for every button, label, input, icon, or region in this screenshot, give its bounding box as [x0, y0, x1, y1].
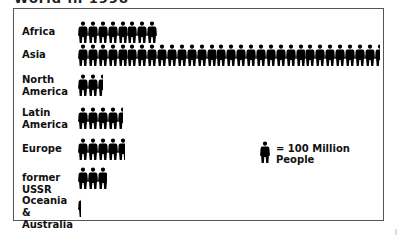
person-icon: [266, 44, 276, 66]
legend-text: = 100 Million People: [276, 143, 383, 165]
person-icon: [197, 44, 207, 66]
person-icon: [98, 21, 108, 43]
person-icon: [108, 107, 118, 129]
person-icon: [108, 44, 118, 66]
person-icon: [207, 44, 217, 66]
corner-mark: [395, 229, 397, 235]
person-icon: [236, 44, 246, 66]
row-label: former USSR: [22, 172, 60, 196]
person-icon: [246, 44, 256, 66]
person-icon: [216, 44, 226, 66]
person-icon: [98, 138, 108, 160]
person-icon: [78, 167, 88, 189]
figure-group: [78, 167, 107, 189]
person-icon: [256, 44, 266, 66]
person-icon: [78, 107, 88, 129]
row-label: NorthAmerica: [22, 74, 68, 98]
person-icon-partial: [98, 167, 107, 189]
person-icon: [296, 44, 306, 66]
person-icon: [147, 21, 157, 43]
person-icon: [315, 44, 325, 66]
person-icon: [260, 141, 270, 167]
person-icon: [127, 44, 137, 66]
person-icon: [305, 44, 315, 66]
row-label: Europe: [22, 143, 62, 155]
figure-group: [78, 74, 103, 96]
person-icon-partial: [78, 195, 81, 217]
person-icon: [167, 44, 177, 66]
figure-group: [78, 44, 380, 66]
row-label: Africa: [22, 26, 55, 38]
person-icon: [88, 138, 98, 160]
person-icon-partial: [118, 138, 126, 160]
person-icon-partial: [98, 74, 103, 96]
person-icon-partial: [375, 44, 380, 66]
person-icon: [98, 44, 108, 66]
person-icon: [88, 107, 98, 129]
row-label: Asia: [22, 49, 46, 61]
person-icon: [325, 44, 335, 66]
person-icon: [187, 44, 197, 66]
figure-group: [78, 21, 157, 43]
person-icon: [157, 44, 167, 66]
person-icon: [137, 44, 147, 66]
person-icon: [147, 44, 157, 66]
person-icon: [355, 44, 365, 66]
person-icon: [177, 44, 187, 66]
row-label: LatinAmerica: [22, 107, 68, 131]
person-icon: [335, 44, 345, 66]
person-icon: [88, 44, 98, 66]
person-icon: [108, 138, 118, 160]
chart-title: World in 1998: [14, 0, 129, 6]
figure-group: [78, 107, 123, 129]
person-icon: [78, 138, 88, 160]
person-icon: [137, 21, 147, 43]
person-icon: [108, 21, 118, 43]
person-icon: [88, 74, 98, 96]
person-icon: [286, 44, 296, 66]
person-icon: [88, 167, 98, 189]
person-icon: [118, 21, 128, 43]
person-icon: [226, 44, 236, 66]
person-icon: [365, 44, 375, 66]
person-icon: [98, 107, 108, 129]
person-icon: [276, 44, 286, 66]
person-icon: [118, 44, 128, 66]
person-icon: [345, 44, 355, 66]
person-icon-partial: [118, 107, 123, 129]
figure-group: [78, 195, 81, 217]
row-label: Oceania &Australia: [22, 195, 73, 231]
legend: = 100 Million People: [260, 141, 383, 167]
figure-group: [78, 138, 125, 160]
chart-frame: AfricaAsiaNorthAmericaLatinAmericaEurope…: [13, 8, 384, 221]
person-icon: [88, 21, 98, 43]
person-icon: [78, 21, 88, 43]
person-icon: [78, 44, 88, 66]
person-icon: [78, 74, 88, 96]
person-icon: [127, 21, 137, 43]
